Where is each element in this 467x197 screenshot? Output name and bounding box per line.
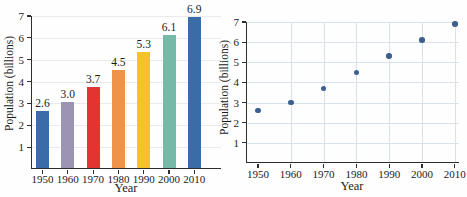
x-tick-label: 2000 [158,174,180,185]
x-tick-label: 1970 [82,174,104,185]
y-tick-label: 7 [4,11,24,22]
y-axis-tick [242,82,246,83]
y-tick-label: 5 [4,54,24,65]
data-point [419,37,425,43]
y-tick-label: 6 [4,32,24,43]
gridline-horizontal [247,143,459,144]
y-axis-tick [242,62,246,63]
data-point [288,100,294,106]
x-tick-label: 1960 [280,169,302,180]
x-tick-label: 1970 [313,169,335,180]
x-tick-label: 2000 [411,169,433,180]
x-tick-label: 1950 [32,174,54,185]
x-axis-line [246,162,459,163]
population-charts-figure: Population (billions) 12345672.619503.01… [0,0,467,197]
y-axis-tick [242,142,246,143]
scatter-chart-x-axis-title: Year [340,180,363,193]
bar-chart-plot-area: 12345672.619503.019603.719704.519805.319… [31,16,221,169]
y-tick-label: 2 [219,117,239,128]
data-point [255,108,261,114]
scatter-chart: Population (billions) 123456719501960197… [233,0,467,197]
data-point [452,21,458,27]
x-tick-label: 1990 [378,169,400,180]
gridline-vertical [324,22,325,162]
data-point [354,70,360,76]
bar-chart-x-axis-title: Year [114,182,137,195]
data-point [386,53,392,59]
gridline-vertical [422,22,423,162]
gridline-horizontal [247,62,459,63]
gridline-vertical [455,22,456,162]
gridline-vertical [291,22,292,162]
y-tick-label: 7 [219,17,239,28]
y-tick-label: 1 [219,137,239,148]
bar-value-label: 5.3 [137,39,151,51]
y-axis-tick [27,125,31,126]
bar [112,70,125,168]
gridline-horizontal [247,22,459,23]
y-axis-tick [242,21,246,22]
y-tick-label: 5 [219,57,239,68]
x-tick-label: 2010 [444,169,466,180]
bar [137,52,150,168]
bar-value-label: 4.5 [111,57,125,69]
bar [61,102,74,168]
y-axis-tick [27,81,31,82]
y-tick-label: 4 [4,76,24,87]
y-axis-line [246,22,247,163]
y-axis-tick [27,37,31,38]
y-axis-tick [242,102,246,103]
gridline-vertical [356,22,357,162]
y-tick-label: 4 [219,77,239,88]
y-tick-label: 3 [4,98,24,109]
bar [36,111,49,168]
x-tick-label: 1960 [57,174,79,185]
bar-value-label: 2.6 [35,98,49,110]
y-axis-line [31,16,32,169]
y-axis-tick [27,15,31,16]
gridline-vertical [389,22,390,162]
y-axis-tick [27,147,31,148]
bar-value-label: 6.9 [187,4,201,16]
bar [163,35,176,168]
gridline-horizontal [247,42,459,43]
bar [87,87,100,168]
bar-value-label: 3.7 [86,74,100,86]
y-tick-label: 1 [4,142,24,153]
y-tick-label: 3 [219,97,239,108]
gridline-horizontal [247,82,459,83]
y-axis-tick [27,103,31,104]
x-tick-label: 2010 [183,174,205,185]
y-axis-tick [242,122,246,123]
data-point [321,86,327,92]
y-tick-label: 2 [4,120,24,131]
bar-chart: Population (billions) 12345672.619503.01… [0,0,233,197]
gridline-horizontal [247,103,459,104]
bar [188,17,201,168]
scatter-chart-plot-area: 12345671950196019701980199020002010 [246,22,459,163]
y-tick-label: 6 [219,37,239,48]
bar-value-label: 6.1 [162,22,176,34]
gridline-horizontal [247,123,459,124]
y-axis-tick [27,59,31,60]
x-tick-label: 1950 [247,169,269,180]
y-axis-tick [242,42,246,43]
bar-value-label: 3.0 [61,89,75,101]
